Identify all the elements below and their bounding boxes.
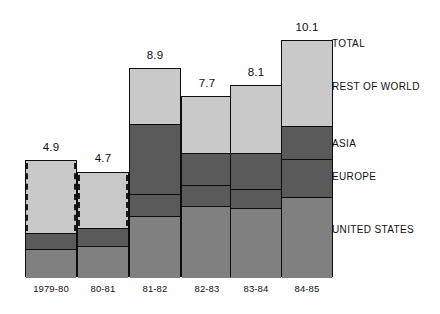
legend-item-united-states: UNITED STATES bbox=[332, 224, 414, 235]
bar-segment-83-84-asia bbox=[231, 153, 281, 189]
bar-segment-81-82-united-states bbox=[130, 216, 180, 278]
legend-item-rest-of-world: REST OF WORLD bbox=[332, 81, 420, 92]
bar-82-83[interactable] bbox=[181, 96, 233, 277]
value-label-82-83: 7.7 bbox=[167, 77, 247, 89]
bar-segment-83-84-united-states bbox=[231, 208, 281, 278]
bar-segment-83-84-europe bbox=[231, 189, 281, 208]
category-label-84-85: 84-85 bbox=[265, 283, 349, 294]
bar-80-81[interactable] bbox=[77, 172, 129, 277]
bar-segment-1979-80-europe bbox=[26, 233, 76, 249]
bar-segment-82-83-europe bbox=[182, 185, 232, 206]
bar-segment-82-83-rest-of-world bbox=[182, 97, 232, 153]
bar-segment-84-85-asia bbox=[282, 126, 332, 159]
value-label-84-85: 10.1 bbox=[267, 21, 347, 33]
bar-segment-82-83-asia bbox=[182, 153, 232, 185]
bar-segment-1979-80-united-states bbox=[26, 249, 76, 278]
bar-83-84[interactable] bbox=[230, 85, 282, 277]
value-label-80-81: 4.7 bbox=[63, 152, 143, 164]
bar-segment-83-84-rest-of-world bbox=[231, 86, 281, 153]
bar-segment-1979-80-rest-of-world bbox=[26, 161, 76, 233]
bar-segment-80-81-rest-of-world bbox=[78, 173, 128, 228]
bar-segment-82-83-united-states bbox=[182, 206, 232, 278]
bar-segment-80-81-united-states bbox=[78, 246, 128, 278]
bar-segment-84-85-united-states bbox=[282, 197, 332, 278]
stacked-bar-chart: 4.94.78.97.78.110.1 1979-8080-8181-8282-… bbox=[0, 0, 440, 314]
bar-81-82[interactable] bbox=[129, 68, 181, 277]
bar-1979-80[interactable] bbox=[25, 160, 77, 277]
bar-segment-80-81-europe bbox=[78, 228, 128, 246]
bar-segment-84-85-rest-of-world bbox=[282, 41, 332, 126]
value-label-81-82: 8.9 bbox=[115, 49, 195, 61]
legend-item-europe: EUROPE bbox=[332, 171, 376, 182]
legend-item-asia: ASIA bbox=[332, 138, 356, 149]
bar-segment-84-85-europe bbox=[282, 159, 332, 197]
legend-item-total: TOTAL bbox=[332, 38, 365, 49]
value-label-83-84: 8.1 bbox=[216, 66, 296, 78]
bar-segment-81-82-europe bbox=[130, 194, 180, 216]
